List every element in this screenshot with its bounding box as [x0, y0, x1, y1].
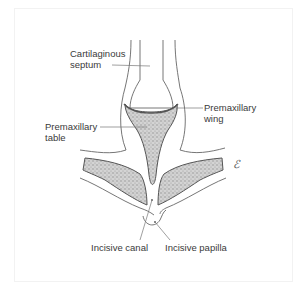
label-line: table	[45, 132, 97, 143]
label-incisive-canal: Incisive canal	[91, 242, 148, 253]
publisher-mark-icon: ℰ	[233, 158, 240, 171]
cartilaginous-septum-shape	[130, 40, 173, 108]
label-line: Premaxillary	[204, 102, 256, 113]
label-line: Cartilaginous	[70, 48, 125, 59]
label-line: septum	[70, 59, 125, 70]
right-palatal-bone	[158, 158, 223, 205]
label-line: wing	[204, 113, 256, 124]
label-premaxillary-table: Premaxillary table	[45, 121, 97, 143]
anatomy-illustration	[0, 0, 303, 287]
label-cartilaginous-septum: Cartilaginous septum	[70, 48, 125, 70]
label-line: Premaxillary	[45, 121, 97, 132]
label-incisive-papilla: Incisive papilla	[165, 242, 227, 253]
label-premaxillary-wing: Premaxillary wing	[204, 102, 256, 124]
left-palatal-bone	[83, 158, 147, 205]
